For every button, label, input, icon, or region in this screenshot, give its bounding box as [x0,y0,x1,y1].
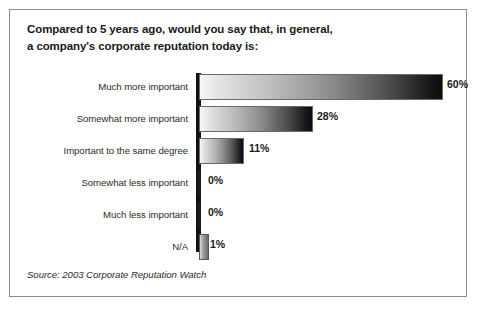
bar-important-same-degree [199,138,244,164]
bar-container [199,106,313,132]
bar-value-label: 0% [208,199,223,225]
bar-container [199,138,244,164]
bar-container [197,170,201,196]
category-label: Much more important [10,71,188,103]
chart-figure: Compared to 5 years ago, would you say t… [9,9,467,297]
bar-much-more-important [199,74,443,100]
source-note: Source: 2003 Corporate Reputation Watch [27,269,206,280]
category-label: N/A [10,231,188,263]
bar-row: Much more important 60% [10,71,468,103]
bar-row: Much less important 0% [10,199,468,231]
bar-somewhat-more-important [199,106,313,132]
plot-area: Much more important 60% Somewhat more im… [10,65,468,255]
bar-value-label: 1% [210,231,225,257]
chart-title-line-2: a company's corporate reputation today i… [27,38,447,55]
bar-row: Important to the same degree 11% [10,135,468,167]
bar-row: Somewhat less important 0% [10,167,468,199]
bar-row: N/A 1% [10,231,468,263]
bar-value-label: 60% [447,71,468,97]
category-label: Much less important [10,199,188,231]
category-label: Important to the same degree [10,135,188,167]
bar-value-label: 0% [208,167,223,193]
bar-container [199,74,443,100]
bar-value-label: 11% [249,135,269,161]
category-label: Somewhat less important [10,167,188,199]
bar-container [197,202,201,228]
bar-na [199,234,209,260]
chart-title: Compared to 5 years ago, would you say t… [27,21,447,55]
category-label: Somewhat more important [10,103,188,135]
bar-row: Somewhat more important 28% [10,103,468,135]
bar-much-less-important [197,202,201,228]
bar-value-label: 28% [317,103,338,129]
bar-somewhat-less-important [197,170,201,196]
bar-container [199,234,209,260]
chart-title-line-1: Compared to 5 years ago, would you say t… [27,21,447,38]
